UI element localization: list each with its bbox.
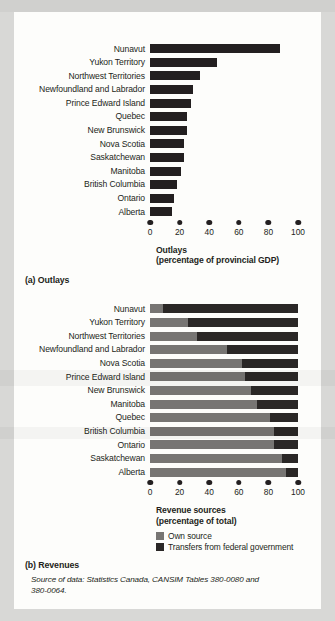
revenues-category-label: New Brunswick bbox=[14, 386, 150, 395]
revenues-category-label: Nunavut bbox=[14, 305, 150, 314]
revenues-axis-tick-dot bbox=[206, 480, 212, 486]
panel-a-caption: (a) Outlays bbox=[14, 275, 321, 285]
outlays-axis-tick-dot bbox=[177, 220, 183, 226]
outlays-category-label: Alberta bbox=[14, 208, 150, 217]
outlays-bar bbox=[150, 180, 177, 189]
revenues-bar-track bbox=[150, 468, 298, 477]
outlays-axis-title: Outlays (percentage of provincial GDP) bbox=[14, 245, 321, 266]
revenues-transfer-segment bbox=[245, 372, 298, 381]
outlays-bar-track bbox=[150, 99, 298, 108]
revenues-bar-track bbox=[150, 372, 298, 381]
revenues-axis-ticks: 020406080100 bbox=[150, 479, 310, 505]
revenues-row: Saskatchewan bbox=[14, 452, 321, 466]
outlays-category-label: Prince Edward Island bbox=[14, 99, 150, 108]
revenues-row: Nova Scotia bbox=[14, 357, 321, 371]
outlays-category-label: Manitoba bbox=[14, 167, 150, 176]
scan-band-top bbox=[0, 0, 335, 12]
outlays-axis-ticks: 020406080100 bbox=[150, 219, 310, 245]
panel-b-caption: (b) Revenues bbox=[14, 560, 321, 570]
revenues-transfer-segment bbox=[270, 413, 298, 422]
revenues-axis-tick-label: 40 bbox=[205, 488, 214, 497]
outlays-category-label: Yukon Territory bbox=[14, 58, 150, 67]
outlays-category-label: New Brunswick bbox=[14, 126, 150, 135]
outlays-bar-rows: NunavutYukon TerritoryNorthwest Territor… bbox=[14, 42, 321, 219]
outlays-category-label: Ontario bbox=[14, 194, 150, 203]
revenues-own-source-segment bbox=[150, 318, 188, 327]
revenues-row: British Columbia bbox=[14, 425, 321, 439]
outlays-row: Manitoba bbox=[14, 164, 321, 178]
revenues-category-label: Quebec bbox=[14, 413, 150, 422]
outlays-bar bbox=[150, 207, 172, 216]
outlays-bar bbox=[150, 194, 174, 203]
revenues-x-axis: 020406080100 bbox=[14, 479, 321, 505]
revenues-bar-track bbox=[150, 454, 298, 463]
revenues-own-source-segment bbox=[150, 372, 245, 381]
outlays-bar bbox=[150, 153, 184, 162]
revenues-transfer-segment bbox=[286, 468, 298, 477]
revenues-bar-track bbox=[150, 359, 298, 368]
revenues-row: Quebec bbox=[14, 411, 321, 425]
revenues-bar-track bbox=[150, 318, 298, 327]
revenues-chart: NunavutYukon TerritoryNorthwest Territor… bbox=[14, 285, 321, 597]
outlays-axis-tick-dot bbox=[147, 220, 153, 226]
revenues-category-label: Alberta bbox=[14, 468, 150, 477]
outlays-bar-track bbox=[150, 207, 298, 216]
outlays-row: British Columbia bbox=[14, 178, 321, 192]
source-note: Source of data: Statistics Canada, CANSI… bbox=[14, 575, 321, 597]
revenues-axis-tick-label: 20 bbox=[175, 488, 184, 497]
outlays-row: Northwest Territories bbox=[14, 69, 321, 83]
outlays-bar-track bbox=[150, 194, 298, 203]
outlays-row: Yukon Territory bbox=[14, 56, 321, 70]
revenues-own-source-segment bbox=[150, 345, 227, 354]
revenues-bar-track bbox=[150, 304, 298, 313]
own-source-swatch bbox=[156, 532, 164, 540]
revenues-own-source-segment bbox=[150, 427, 274, 436]
revenues-axis-tick-dot bbox=[177, 480, 183, 486]
revenues-own-source-segment bbox=[150, 440, 274, 449]
revenues-axis-tick-label: 80 bbox=[264, 488, 273, 497]
revenues-axis-tick-dot bbox=[295, 480, 301, 486]
outlays-row: Alberta bbox=[14, 205, 321, 219]
revenues-transfer-segment bbox=[188, 318, 298, 327]
revenues-transfer-segment bbox=[227, 345, 298, 354]
outlays-bar-track bbox=[150, 139, 298, 148]
revenues-axis-tick-dot bbox=[147, 480, 153, 486]
revenues-axis-tick-dot bbox=[266, 480, 272, 486]
revenues-axis-title-line2: (percentage of total) bbox=[156, 516, 321, 527]
revenues-bar-track bbox=[150, 427, 298, 436]
outlays-axis-tick-label: 20 bbox=[175, 228, 184, 237]
outlays-bar bbox=[150, 139, 184, 148]
revenues-own-source-segment bbox=[150, 332, 197, 341]
outlays-bar-track bbox=[150, 44, 298, 53]
revenues-bar-track bbox=[150, 332, 298, 341]
revenues-row: Ontario bbox=[14, 438, 321, 452]
outlays-row: Newfoundland and Labrador bbox=[14, 83, 321, 97]
outlays-bar bbox=[150, 71, 200, 80]
revenues-own-source-segment bbox=[150, 400, 257, 409]
outlays-bar bbox=[150, 112, 187, 121]
revenues-bar-track bbox=[150, 386, 298, 395]
revenues-row: Prince Edward Island bbox=[14, 370, 321, 384]
outlays-bar bbox=[150, 44, 280, 53]
outlays-bar-track bbox=[150, 126, 298, 135]
revenues-axis-tick-label: 0 bbox=[148, 488, 153, 497]
outlays-axis-title-line2: (percentage of provincial GDP) bbox=[156, 255, 321, 266]
outlays-category-label: Quebec bbox=[14, 112, 150, 121]
outlays-bar bbox=[150, 58, 217, 67]
outlays-bar bbox=[150, 85, 193, 94]
outlays-row: New Brunswick bbox=[14, 124, 321, 138]
revenues-category-label: Newfoundland and Labrador bbox=[14, 345, 150, 354]
revenues-transfer-segment bbox=[257, 400, 298, 409]
revenues-axis-tick-dot bbox=[236, 480, 242, 486]
outlays-axis-tick-label: 80 bbox=[264, 228, 273, 237]
revenues-own-source-segment bbox=[150, 454, 282, 463]
outlays-category-label: Nunavut bbox=[14, 45, 150, 54]
outlays-axis-tick-label: 0 bbox=[148, 228, 153, 237]
revenues-own-source-segment bbox=[150, 359, 242, 368]
revenues-own-source-segment bbox=[150, 468, 286, 477]
revenues-legend: Own sourceTransfers from federal governm… bbox=[14, 530, 321, 552]
outlays-bar-track bbox=[150, 180, 298, 189]
revenues-category-label: Manitoba bbox=[14, 400, 150, 409]
revenues-bar-rows: NunavutYukon TerritoryNorthwest Territor… bbox=[14, 302, 321, 479]
outlays-bar-track bbox=[150, 85, 298, 94]
